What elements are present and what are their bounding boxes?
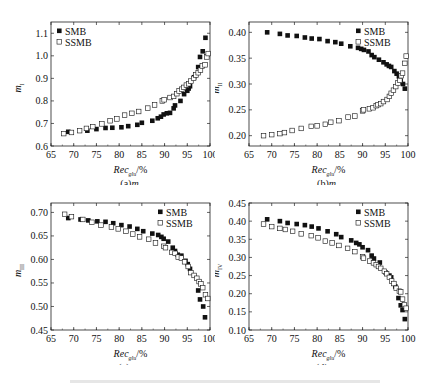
data-point <box>205 296 210 301</box>
data-point <box>323 239 328 244</box>
y-tick-label: 0.8 <box>36 95 49 106</box>
y-tick-label: 0.40 <box>229 27 247 38</box>
data-point <box>81 217 86 222</box>
data-point <box>61 131 66 136</box>
x-axis-label: Recglu/% <box>113 348 148 361</box>
data-point <box>325 39 330 44</box>
data-point <box>278 226 283 231</box>
panel-label: (b)mII <box>317 178 340 185</box>
data-point <box>100 122 105 127</box>
x-tick-label: 85 <box>137 333 147 344</box>
data-point <box>124 229 129 234</box>
data-point <box>150 118 155 123</box>
data-point <box>290 229 295 234</box>
data-point <box>168 111 173 116</box>
y-tick-label: 1.1 <box>36 28 49 39</box>
data-point <box>325 229 330 234</box>
legend-entry: SSMB <box>166 218 193 229</box>
data-point <box>278 131 283 136</box>
y-tick-label: 1.0 <box>36 50 49 61</box>
x-tick-label: 75 <box>289 333 299 344</box>
data-point <box>278 32 283 37</box>
data-point <box>110 125 115 130</box>
y-tick-label: 0.15 <box>229 306 247 317</box>
x-tick-label: 80 <box>114 149 124 160</box>
plot-area: 657075808590951000.100.150.200.250.300.3… <box>215 198 416 366</box>
data-point <box>62 212 67 217</box>
data-point <box>403 61 408 66</box>
data-point <box>303 35 308 40</box>
data-point <box>330 241 335 246</box>
y-tick-label: 0.55 <box>31 277 49 288</box>
data-point <box>337 118 342 123</box>
y-tick-label: 0.65 <box>31 230 49 241</box>
x-tick-label: 70 <box>69 333 79 344</box>
x-tick-label: 95 <box>380 149 390 160</box>
x-tick-label: 85 <box>137 149 147 160</box>
data-point <box>372 55 377 60</box>
data-point <box>334 232 339 237</box>
data-point <box>130 232 135 237</box>
data-point <box>152 103 157 108</box>
scatter-plot-m3: 657075808590951000.450.500.550.600.650.7… <box>0 185 215 365</box>
data-point <box>163 245 168 250</box>
data-point <box>119 125 124 130</box>
data-point <box>317 37 322 42</box>
chart-panel-d: 657075808590951000.100.150.200.250.300.3… <box>215 185 430 365</box>
data-point <box>173 103 178 108</box>
figure-caption-illegible <box>70 380 380 383</box>
x-tick-label: 75 <box>91 149 101 160</box>
data-point <box>146 237 151 242</box>
data-point <box>90 220 95 225</box>
legend-entry: SSMB <box>364 37 391 48</box>
data-point <box>203 35 208 40</box>
data-point <box>278 219 283 224</box>
legend: SMBSSMB <box>57 26 92 48</box>
data-point <box>349 238 354 243</box>
legend-marker-icon <box>158 221 163 226</box>
y-axis-label: mII <box>215 82 223 93</box>
plot-area: 657075808590951000.450.500.550.600.650.7… <box>12 203 215 365</box>
y-tick-label: 0.6 <box>36 141 49 152</box>
data-point <box>346 115 351 120</box>
data-point <box>353 114 358 119</box>
legend-marker-icon <box>356 210 361 215</box>
x-tick-label: 90 <box>160 333 170 344</box>
data-point <box>150 231 155 236</box>
y-tick-label: 0.50 <box>31 301 49 312</box>
panel-label: (a)mI <box>120 178 140 185</box>
data-point <box>198 297 203 302</box>
x-axis-label: Recglu/% <box>311 348 346 361</box>
y-tick-label: 0.70 <box>31 207 49 218</box>
x-tick-label: 70 <box>267 333 277 344</box>
chart-panel-a: 657075808590951000.60.70.80.91.01.1mIRec… <box>0 0 215 185</box>
data-point <box>377 57 382 62</box>
data-point <box>361 256 366 261</box>
data-point <box>362 48 367 53</box>
data-point <box>137 235 142 240</box>
data-point <box>348 44 353 49</box>
data-point <box>127 224 132 229</box>
data-point <box>265 217 270 222</box>
y-tick-label: 0.9 <box>36 73 49 84</box>
data-point <box>316 226 321 231</box>
data-point <box>186 264 191 269</box>
data-point <box>282 130 287 135</box>
x-tick-label: 85 <box>335 333 345 344</box>
legend-entry: SMB <box>166 207 187 218</box>
data-point <box>323 122 328 127</box>
data-point <box>398 78 403 83</box>
data-point <box>206 51 211 56</box>
y-tick-label: 0.45 <box>229 198 247 209</box>
data-point <box>84 126 89 131</box>
data-point <box>140 120 145 125</box>
data-point <box>360 245 365 250</box>
x-tick-label: 75 <box>289 149 299 160</box>
data-point <box>294 222 299 227</box>
data-point <box>392 281 397 286</box>
x-axis-label: Recglu/% <box>311 164 346 177</box>
x-tick-label: 85 <box>335 149 345 160</box>
data-point <box>135 227 140 232</box>
x-tick-label: 90 <box>358 333 368 344</box>
data-point <box>333 40 338 45</box>
